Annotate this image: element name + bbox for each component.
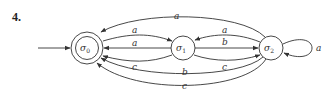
edge-s1-s0-c — [103, 55, 172, 61]
edge-label: a — [222, 25, 227, 35]
state-s1: σ1 — [171, 36, 195, 60]
edge-s1-s2-c — [194, 55, 260, 60]
edge-s2-s2-a — [283, 40, 312, 57]
edge-s2-s0-a-top — [101, 17, 265, 37]
edge-label: a — [132, 25, 137, 35]
edge-label: b — [182, 67, 188, 77]
state-s0: σ0 — [71, 32, 103, 64]
edge-s0-s1-a — [103, 35, 172, 41]
edge-label: c — [182, 81, 187, 91]
fsa-diagram: σ0 σ1 σ2 a a a c a b c b c a — [0, 0, 334, 100]
state-s2: σ2 — [259, 36, 283, 60]
edge-label: a — [132, 38, 137, 48]
edge-label: c — [132, 62, 137, 72]
edge-label: a — [316, 43, 321, 53]
edge-label: a — [174, 11, 179, 21]
edge-label: b — [222, 37, 228, 47]
